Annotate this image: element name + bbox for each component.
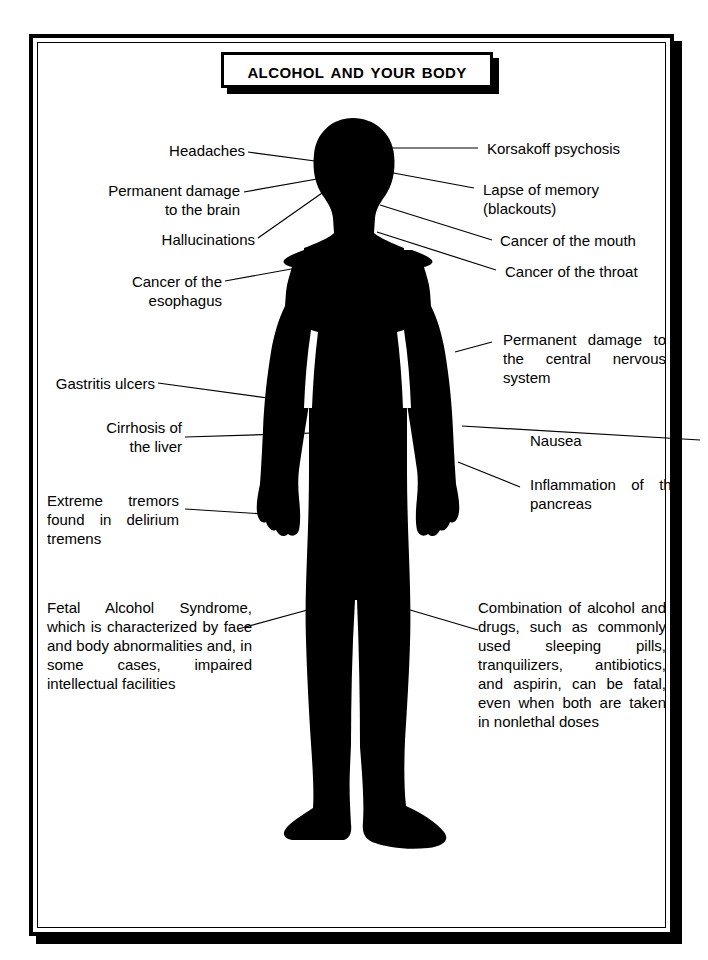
label-fetal-alcohol-syndrome: Fetal Alcohol Syndrome, which is charact… <box>47 598 252 693</box>
label-korsakoff-psychosis: Korsakoff psychosis <box>487 139 667 158</box>
label-inflammation-pancreas: Inflammation of the pancreas <box>530 475 680 513</box>
label-hallucinations: Hallucinations <box>40 230 255 249</box>
poster-canvas: Alcohol and Your Body <box>0 0 708 960</box>
label-extreme-tremors: Extreme tremors found in delirium tremen… <box>47 491 179 548</box>
title-box: Alcohol and Your Body <box>221 52 493 88</box>
label-cirrhosis-liver: Cirrhosis of the liver <box>40 418 182 456</box>
label-cancer-mouth: Cancer of the mouth <box>500 231 675 250</box>
label-central-nervous-system: Permanent damage to the central nervous … <box>503 330 666 387</box>
label-cancer-esophagus: Cancer of the esophagus <box>40 272 222 310</box>
title-banner: Alcohol and Your Body <box>221 52 493 88</box>
label-cancer-throat: Cancer of the throat <box>505 262 680 281</box>
label-headaches: Headaches <box>40 141 245 160</box>
label-combination-drugs: Combination of alcohol and drugs, such a… <box>478 598 666 731</box>
label-lapse-of-memory: Lapse of memory (blackouts) <box>483 180 658 218</box>
label-gastritis-ulcers: Gastritis ulcers <box>40 374 155 393</box>
page-title: Alcohol and Your Body <box>247 60 466 81</box>
label-permanent-brain: Permanent damage to the brain <box>40 181 240 219</box>
label-nausea: Nausea <box>530 431 620 450</box>
